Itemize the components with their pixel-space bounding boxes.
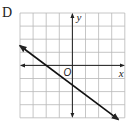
coordinate-plane: x y O [0,0,131,128]
origin-label: O [63,67,71,78]
plotted-line [20,46,118,120]
x-axis-label: x [118,67,124,79]
y-axis-label: y [75,11,81,23]
axes [21,14,124,117]
